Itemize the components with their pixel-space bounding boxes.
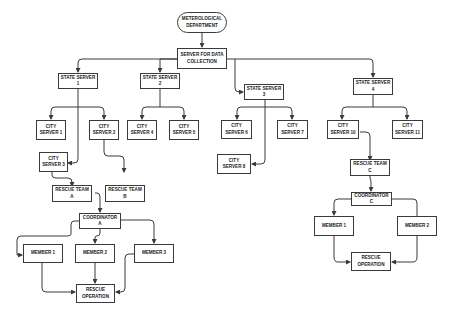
node-label: CITY SERVER 6	[225, 123, 248, 135]
city-server-2-node: CITY SERVER 2	[89, 120, 119, 140]
member-a2-node: MEMBER 2	[75, 244, 115, 263]
city-server-11-node: CITY SERVER 11	[392, 120, 423, 139]
rescue-operation-c-node: RESCUE OPERATION	[351, 252, 391, 271]
node-label: STATE SERVER 1	[60, 75, 96, 87]
state-server-3-node: STATE SERVER 3	[244, 84, 284, 100]
city-server-1-node: CITY SERVER 1	[36, 120, 66, 140]
node-label: RESCUE OPERATION	[358, 255, 385, 267]
node-label: CITY SERVER 3	[42, 156, 65, 168]
node-label: RESCUE TEAM C	[352, 161, 388, 173]
state-server-1-node: STATE SERVER 1	[58, 73, 98, 89]
city-server-3-node: CITY SERVER 3	[39, 152, 68, 172]
coordinator-c-node: COORDINATOR C	[351, 192, 392, 206]
data-collection-server-node: SERVER FOR DATA COLLECTION	[177, 48, 227, 69]
node-label: RESCUE TEAM A	[54, 187, 90, 199]
member-c2-node: MEMBER 2	[397, 216, 437, 236]
node-label: MEMBER 3	[142, 250, 166, 256]
node-label: MEMBER 1	[322, 223, 346, 229]
node-label: CITY SERVER 8	[223, 158, 246, 170]
rescue-operation-a-node: RESCUE OPERATION	[76, 284, 115, 303]
city-server-7-node: CITY SERVER 7	[277, 120, 308, 139]
city-server-8-node: CITY SERVER 8	[217, 154, 251, 174]
member-a1-node: MEMBER 1	[23, 244, 63, 263]
meteorological-department-node: METEROLOGICAL DEPARTMENT	[177, 12, 227, 33]
node-label: METEROLOGICAL DEPARTMENT	[182, 16, 222, 28]
city-server-4-node: CITY SERVER 4	[127, 120, 157, 140]
city-server-5-node: CITY SERVER 5	[169, 120, 199, 140]
node-label: SERVER FOR DATA COLLECTION	[180, 52, 223, 64]
member-a3-node: MEMBER 3	[134, 244, 174, 263]
node-label: COORDINATOR C	[353, 193, 390, 205]
coordinator-a-node: COORDINATOR A	[79, 213, 121, 229]
node-label: RESCUE TEAM B	[107, 187, 143, 199]
node-label: CITY SERVER 5	[173, 124, 196, 136]
rescue-team-c-node: RESCUE TEAM C	[350, 159, 390, 176]
node-label: CITY SERVER 1	[40, 124, 63, 136]
member-c1-node: MEMBER 1	[314, 216, 354, 236]
node-label: MEMBER 1	[31, 250, 55, 256]
rescue-team-b-node: RESCUE TEAM B	[105, 185, 145, 202]
rescue-team-a-node: RESCUE TEAM A	[52, 185, 92, 202]
node-label: RESCUE OPERATION	[82, 287, 109, 299]
flowchart-canvas: METEROLOGICAL DEPARTMENT SERVER FOR DATA…	[0, 0, 450, 317]
node-label: STATE SERVER 4	[355, 80, 391, 92]
node-label: CITY SERVER 10	[330, 123, 355, 135]
node-label: CITY SERVER 2	[93, 124, 116, 136]
node-label: MEMBER 2	[405, 223, 429, 229]
state-server-4-node: STATE SERVER 4	[353, 78, 393, 95]
city-server-6-node: CITY SERVER 6	[221, 120, 252, 139]
state-server-2-node: STATE SERVER 2	[140, 73, 180, 89]
node-label: CITY SERVER 11	[395, 123, 420, 135]
node-label: CITY SERVER 7	[281, 123, 304, 135]
node-label: STATE SERVER 2	[142, 75, 178, 87]
node-label: MEMBER 2	[83, 250, 107, 256]
node-label: COORDINATOR A	[81, 215, 119, 227]
node-label: STATE SERVER 3	[246, 86, 282, 98]
city-server-10-node: CITY SERVER 10	[327, 120, 359, 139]
node-label: CITY SERVER 4	[131, 124, 154, 136]
